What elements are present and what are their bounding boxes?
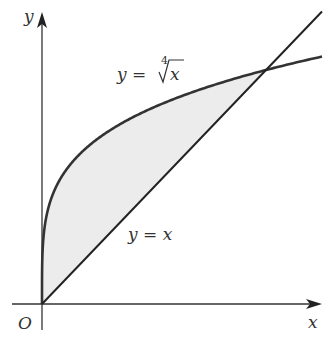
curve-label-radicand: x (170, 64, 180, 84)
y-axis-label: y (23, 6, 34, 26)
origin-label: O (18, 313, 32, 333)
line-label: y = x (127, 224, 173, 244)
plot-area: y x O y = 4 x y = x (0, 0, 327, 343)
curve-label-prefix: y = (116, 64, 146, 84)
x-axis-label: x (308, 312, 318, 332)
curve-label: y = 4 x (116, 54, 184, 84)
curve-label-root-index: 4 (161, 54, 168, 67)
